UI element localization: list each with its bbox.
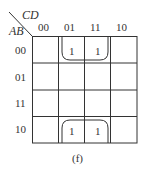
- col-label-01: 01: [64, 22, 75, 33]
- cell-r0-c2: 1: [95, 46, 101, 57]
- col-label-00: 00: [38, 22, 49, 33]
- cell-r3-c2: 1: [95, 126, 101, 137]
- row-label-10: 10: [15, 124, 26, 135]
- row-label-01: 01: [15, 72, 26, 83]
- col-label-11: 11: [90, 22, 101, 33]
- row-label-11: 11: [15, 98, 26, 109]
- col-label-10: 10: [116, 22, 127, 33]
- row-label-00: 00: [15, 45, 26, 56]
- row-var-label: AB: [9, 25, 24, 37]
- cell-r0-c1: 1: [69, 46, 75, 57]
- col-var-label: CD: [22, 9, 39, 21]
- cell-r3-c1: 1: [69, 126, 75, 137]
- figure-caption: (f): [72, 153, 83, 164]
